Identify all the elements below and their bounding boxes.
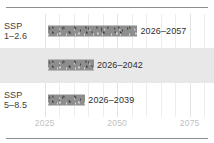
category-label-line1: SSP (4, 21, 36, 31)
bar-row: 2026–2042 (36, 48, 210, 82)
range-bar[interactable] (48, 26, 138, 37)
bar-row: 2026–2057 (36, 14, 210, 48)
chart-figure: · · SSP 1–2.6 SSP 2–4.5 SSP 5–8.5 2026–2… (0, 0, 214, 143)
x-axis: 202520502075 (36, 118, 210, 130)
x-tick-label: 2075 (180, 118, 200, 129)
category-label-ssp1-26: SSP 1–2.6 (4, 14, 36, 48)
range-value-label: 2026–2057 (141, 26, 187, 36)
range-value-label: 2026–2039 (88, 95, 134, 105)
range-value-label: 2026–2042 (97, 60, 143, 70)
top-rule (6, 7, 208, 8)
bottom-rule (6, 138, 208, 139)
bar-rows: 2026–20572026–20422026–2039 (36, 14, 210, 117)
x-tick-label: 2050 (107, 118, 127, 129)
range-bar[interactable] (48, 60, 94, 71)
category-label-ssp5-85: SSP 5–8.5 (4, 83, 36, 117)
category-label-line1: SSP (4, 90, 36, 100)
category-label-line2: 1–2.6 (4, 31, 36, 41)
clipped-header-text: · · (0, 0, 214, 4)
bar-row: 2026–2039 (36, 83, 210, 117)
x-tick-label: 2025 (35, 118, 55, 129)
category-label-line2: 5–8.5 (4, 100, 36, 110)
plot-area: 2026–20572026–20422026–2039 (36, 14, 210, 117)
range-bar[interactable] (48, 94, 86, 105)
